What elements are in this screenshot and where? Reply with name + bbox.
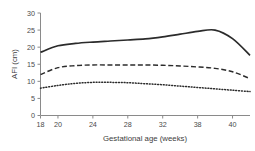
figure-caption (6, 144, 249, 151)
x-tick-label: 28 (124, 120, 132, 129)
x-tick-label: 18 (37, 120, 45, 129)
x-tick-label: 32 (159, 120, 167, 129)
y-tick-label: 10 (27, 77, 35, 86)
chart-figure: 051015202530 18202428323840 Gestational … (0, 0, 255, 151)
y-tick-label: 20 (27, 43, 35, 52)
y-tick-label: 5 (31, 94, 35, 103)
x-axis-title: Gestational age (weeks) (103, 134, 187, 143)
y-tick-label: 15 (27, 60, 35, 69)
x-tick-label: 20 (54, 120, 62, 129)
afi-percentile-line-chart: 051015202530 18202428323840 Gestational … (0, 0, 255, 151)
x-tick-label: 40 (229, 120, 237, 129)
y-tick-label: 25 (27, 26, 35, 35)
y-axis-title: AFI (cm) (10, 49, 19, 79)
x-tick-label: 38 (194, 120, 202, 129)
y-tick-label: 30 (27, 9, 35, 18)
x-tick-label: 24 (89, 120, 97, 129)
y-tick-label: 0 (31, 111, 35, 120)
